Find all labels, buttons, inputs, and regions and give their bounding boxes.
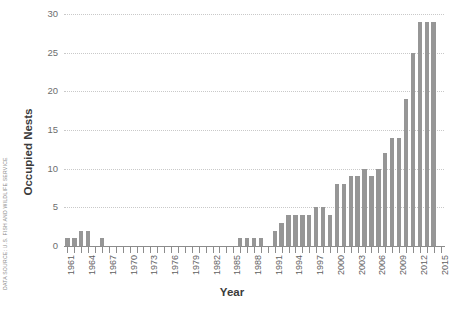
bar	[355, 176, 359, 246]
x-tick	[240, 247, 241, 253]
bar	[252, 238, 256, 246]
x-tick-label: 1997	[315, 255, 325, 275]
bar	[431, 22, 435, 246]
bar	[335, 184, 339, 246]
x-tick	[130, 247, 131, 253]
bar	[362, 169, 366, 246]
bar	[369, 176, 373, 246]
x-tick-label: 2006	[377, 255, 387, 275]
x-tick	[81, 247, 82, 253]
x-tick-label: 2009	[398, 255, 408, 275]
x-tick	[323, 247, 324, 253]
x-tick	[150, 247, 151, 253]
bar-series	[64, 14, 444, 246]
x-tick-label: 1982	[212, 255, 222, 275]
x-tick	[399, 247, 400, 253]
bar	[300, 215, 304, 246]
x-axis-ticks	[64, 247, 444, 253]
bar	[72, 238, 76, 246]
x-tick	[247, 247, 248, 253]
x-tick-label: 1979	[191, 255, 201, 275]
x-tick	[434, 247, 435, 253]
x-tick	[268, 247, 269, 253]
x-tick-label: 2012	[419, 255, 429, 275]
bar	[383, 153, 387, 246]
bar	[100, 238, 104, 246]
x-tick-label: 1964	[87, 255, 97, 275]
bar	[245, 238, 249, 246]
bar	[321, 207, 325, 246]
data-source-note: DATA SOURCE: U.S. FISH AND WILDLIFE SERV…	[2, 150, 8, 290]
x-tick	[192, 247, 193, 253]
x-tick	[295, 247, 296, 253]
bar	[86, 231, 90, 246]
bar	[314, 207, 318, 246]
x-tick	[67, 247, 68, 253]
y-tick-label: 25	[36, 48, 58, 58]
y-tick-label: 20	[36, 87, 58, 97]
x-tick-label: 1994	[294, 255, 304, 275]
chart-figure: DATA SOURCE: U.S. FISH AND WILDLIFE SERV…	[0, 0, 464, 311]
bar	[259, 238, 263, 246]
x-tick-label: 1961	[66, 255, 76, 275]
bar	[65, 238, 69, 246]
x-tick	[302, 247, 303, 253]
x-tick	[351, 247, 352, 253]
x-tick	[157, 247, 158, 253]
x-tick	[441, 247, 442, 253]
x-tick	[337, 247, 338, 253]
y-axis-tick-labels: 051015202530	[36, 14, 58, 246]
x-tick-label: 1988	[253, 255, 263, 275]
x-tick	[254, 247, 255, 253]
x-tick	[420, 247, 421, 253]
x-tick-label: 2015	[440, 255, 450, 275]
x-tick-label: 2003	[357, 255, 367, 275]
bar	[279, 223, 283, 246]
x-tick	[406, 247, 407, 253]
bar	[293, 215, 297, 246]
x-tick	[378, 247, 379, 253]
x-tick	[95, 247, 96, 253]
x-tick-label: 1973	[149, 255, 159, 275]
x-tick	[102, 247, 103, 253]
x-tick	[143, 247, 144, 253]
bar	[349, 176, 353, 246]
x-tick	[427, 247, 428, 253]
bar	[390, 138, 394, 246]
x-tick	[219, 247, 220, 253]
bar	[79, 231, 83, 246]
x-tick	[185, 247, 186, 253]
x-tick	[226, 247, 227, 253]
y-tick-label: 15	[36, 125, 58, 135]
bar	[404, 99, 408, 246]
x-tick	[164, 247, 165, 253]
bar	[411, 53, 415, 246]
x-tick	[413, 247, 414, 253]
x-tick	[344, 247, 345, 253]
bar	[307, 215, 311, 246]
bar	[376, 169, 380, 246]
x-tick-label: 1970	[129, 255, 139, 275]
bar	[342, 184, 346, 246]
x-tick-label: 1976	[170, 255, 180, 275]
x-tick	[109, 247, 110, 253]
x-tick	[137, 247, 138, 253]
x-tick	[371, 247, 372, 253]
y-tick-label: 30	[36, 9, 58, 19]
x-tick-label: 2000	[336, 255, 346, 275]
x-tick	[365, 247, 366, 253]
bar	[273, 231, 277, 246]
x-tick	[178, 247, 179, 253]
x-tick	[199, 247, 200, 253]
x-tick	[392, 247, 393, 253]
x-tick	[289, 247, 290, 253]
x-tick	[282, 247, 283, 253]
x-tick	[358, 247, 359, 253]
bar	[397, 138, 401, 246]
x-tick	[233, 247, 234, 253]
x-tick-label: 1967	[108, 255, 118, 275]
x-tick	[316, 247, 317, 253]
x-tick	[88, 247, 89, 253]
x-tick	[275, 247, 276, 253]
x-tick	[206, 247, 207, 253]
